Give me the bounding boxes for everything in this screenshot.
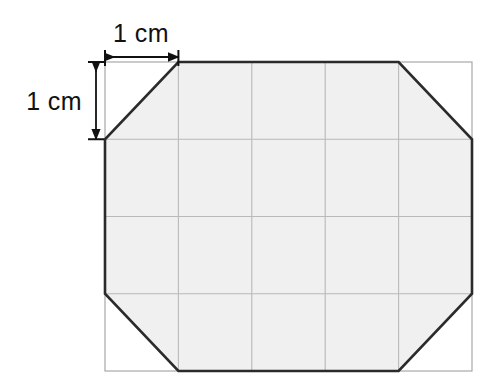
- dimension-vertical-label: 1 cm: [26, 87, 82, 115]
- geometry-figure: 1 cm 1 cm: [0, 0, 485, 391]
- dimension-horizontal-label: 1 cm: [113, 19, 169, 47]
- octagon-grid-diagram: 1 cm 1 cm: [0, 0, 485, 391]
